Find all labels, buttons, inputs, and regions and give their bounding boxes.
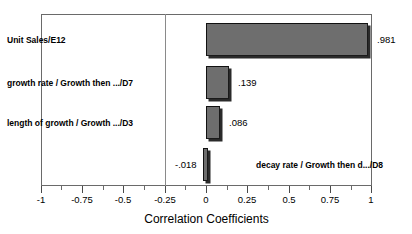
tick-major <box>82 186 83 193</box>
x-tick-label: 0.25 <box>238 194 257 206</box>
x-tick-label: -0.25 <box>154 194 176 206</box>
tick-minor <box>61 186 62 190</box>
bar-label-unit-sales: Unit Sales/E12 <box>7 35 66 46</box>
x-tick-label: -1 <box>37 194 45 206</box>
tick-major <box>289 186 290 193</box>
bar-unit-sales <box>206 23 368 56</box>
x-tick-label: 1 <box>368 194 373 206</box>
x-axis-title: Correlation Coefficients <box>41 212 372 227</box>
x-tick-label: -0.75 <box>71 194 93 206</box>
tick-major <box>371 186 372 193</box>
tick-minor <box>144 186 145 190</box>
tick-major <box>247 186 248 193</box>
tick-major <box>330 186 331 193</box>
x-tick-label: -0.5 <box>115 194 131 206</box>
bar-value-growth-rate: .139 <box>238 77 257 88</box>
bar-length-of-growth <box>206 106 220 139</box>
x-axis-ticks <box>41 186 372 194</box>
correlation-tornado-chart: Unit Sales/E12 .981 growth rate / Growth… <box>0 0 412 234</box>
bar-label-length-of-growth: length of growth / Growth .../D3 <box>7 118 133 129</box>
tick-major <box>165 186 166 193</box>
zero-reference-line <box>165 14 166 186</box>
bar-value-unit-sales: .981 <box>377 34 396 45</box>
tick-minor <box>309 186 310 190</box>
tick-major <box>206 186 207 193</box>
tick-major <box>123 186 124 193</box>
x-tick-label: 0.75 <box>321 194 340 206</box>
bar-growth-rate <box>206 66 229 99</box>
tick-minor <box>268 186 269 190</box>
bar-value-decay-rate: -.018 <box>175 159 197 170</box>
tick-minor <box>103 186 104 190</box>
tick-minor <box>351 186 352 190</box>
x-tick-label: 0.5 <box>282 194 295 206</box>
tick-minor <box>185 186 186 190</box>
x-axis-tick-labels: -1 -0.75 -0.5 -0.25 0 0.25 0.5 0.75 1 <box>41 194 372 208</box>
bar-label-decay-rate: decay rate / Growth then d.../D8 <box>256 160 383 171</box>
bar-decay-rate <box>203 148 208 181</box>
tick-minor <box>227 186 228 190</box>
x-tick-label: 0 <box>203 194 208 206</box>
bar-value-length-of-growth: .086 <box>229 117 248 128</box>
tick-major <box>41 186 42 193</box>
bar-label-growth-rate: growth rate / Growth then .../D7 <box>7 78 133 89</box>
